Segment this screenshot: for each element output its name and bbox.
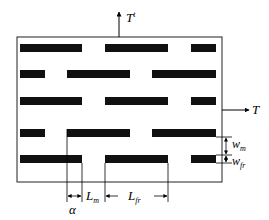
fiber-bar [105, 44, 168, 52]
alpha-label: α [69, 202, 77, 217]
right-traction-label: T [252, 102, 260, 117]
w-fr-label: wfr [232, 154, 246, 170]
fiber-bar [20, 44, 82, 52]
w-m-label: wm [232, 137, 246, 153]
top-traction-label: Tt [126, 10, 136, 25]
fiber-bar [191, 97, 216, 105]
fiber-bar [20, 97, 82, 105]
fiber-bar [191, 44, 216, 52]
fiber-bar [67, 129, 130, 137]
fiber-bar [20, 129, 45, 137]
fiber-bar [152, 129, 216, 137]
fiber-bars [20, 44, 216, 163]
fiber-bar [105, 155, 168, 163]
L-fr-label: Lfr [127, 188, 141, 205]
fiber-bar [20, 70, 45, 78]
L-m-label: Lm [85, 188, 99, 205]
fiber-bar [20, 155, 82, 163]
fiber-diagram: Tt T wm wfr α Lm Lfr [0, 0, 269, 220]
fiber-bar [67, 70, 130, 78]
fiber-bar [105, 97, 168, 105]
fiber-bar [152, 70, 216, 78]
fiber-bar [191, 155, 216, 163]
